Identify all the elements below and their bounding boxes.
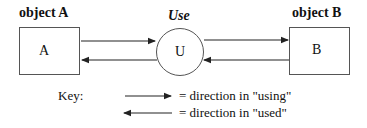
- key-item-used: = direction in "used": [179, 106, 287, 120]
- key-item-using: = direction in "using": [179, 89, 291, 103]
- key-label: Key:: [58, 89, 83, 103]
